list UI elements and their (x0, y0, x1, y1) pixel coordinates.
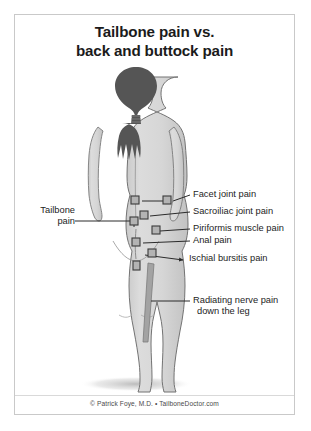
footer-credit: © Patrick Foye, M.D. • TailboneDoctor.co… (15, 400, 294, 407)
marker-piriformis (152, 226, 160, 234)
label-anal-pain: Anal pain (193, 235, 232, 246)
marker-sacroiliac (140, 211, 148, 219)
body-silhouette (88, 77, 188, 392)
label-piriformis-muscle: Piriformis muscle pain (193, 223, 284, 234)
marker-ischial (148, 249, 156, 257)
footer-divider (15, 395, 294, 396)
marker-anal (132, 238, 140, 246)
marker-facet-right (163, 196, 171, 204)
marker-facet-left (131, 196, 139, 204)
marker-lower-midline (133, 261, 140, 270)
label-ischial-bursitis: Ischial bursitis pain (189, 253, 268, 264)
label-tailbone: Tailbone pain (23, 205, 75, 227)
label-tailbone-line2: pain (23, 216, 75, 227)
poster-card: Tailbone pain vs. back and buttock pain (14, 14, 295, 415)
label-radiating-line2: down the leg (193, 306, 278, 317)
label-radiating-line1: Radiating nerve pain (193, 295, 278, 306)
label-radiating-nerve: Radiating nerve pain down the leg (193, 295, 278, 317)
marker-tailbone (130, 217, 138, 225)
label-tailbone-line1: Tailbone (23, 205, 75, 216)
label-sacroiliac-joint: Sacroiliac joint pain (193, 206, 273, 217)
label-facet-joint: Facet joint pain (193, 189, 256, 200)
